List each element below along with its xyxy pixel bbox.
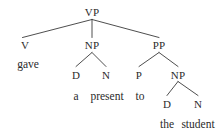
node-d-object: D	[72, 70, 80, 81]
node-n-object: N	[102, 70, 110, 81]
terminal-gave: gave	[17, 59, 39, 71]
edge-pp-np2	[159, 53, 178, 67]
terminal-to: to	[136, 91, 145, 103]
node-vp: VP	[85, 7, 99, 18]
edge-np2-n2	[178, 82, 198, 96]
node-p: P	[136, 70, 142, 81]
edge-pp-p	[139, 53, 159, 67]
node-v: V	[21, 40, 29, 51]
node-np-prepositional: NP	[171, 70, 185, 81]
terminal-the: the	[160, 119, 174, 131]
terminal-present: present	[90, 91, 123, 103]
edge-np1-n1	[92, 53, 106, 67]
edge-vp-v	[23, 20, 93, 38]
node-pp: PP	[153, 40, 166, 51]
node-np-object: NP	[85, 40, 99, 51]
syntax-tree-figure: VP V NP PP gave D N P NP a present to D …	[0, 0, 221, 134]
terminal-a: a	[73, 91, 78, 103]
node-d-prepositional: D	[163, 99, 171, 110]
edge-np1-d1	[76, 53, 92, 67]
edge-vp-pp	[92, 20, 159, 38]
terminal-student: student	[181, 119, 214, 131]
node-n-prepositional: N	[194, 99, 202, 110]
edge-np2-d2	[167, 82, 178, 96]
